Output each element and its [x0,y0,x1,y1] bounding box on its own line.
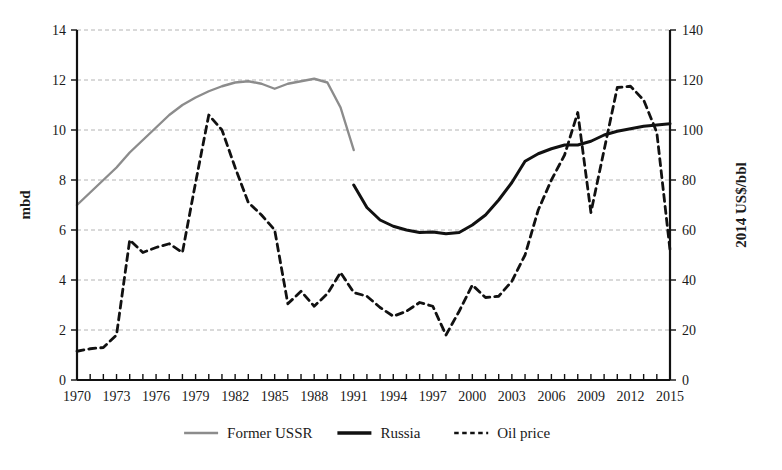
y2-tick-label: 20 [682,323,696,338]
y-axis-title: mbd [17,190,33,220]
x-tick-label: 1979 [182,389,210,404]
y2-tick-label: 40 [682,273,696,288]
y-tick-labels: 02468101214 [52,23,66,388]
legend-label: Former USSR [227,425,312,441]
y2-tick-label: 60 [682,223,696,238]
x-tick-label: 1970 [63,389,91,404]
y2-tick-label: 120 [682,73,703,88]
gridlines-layer [77,30,670,330]
x-tick-label: 1982 [221,389,249,404]
y2-tick-label: 80 [682,173,696,188]
x-tick-labels: 1970197319761979198219851988199119941997… [63,389,684,404]
legend-item[interactable]: Russia [337,425,420,441]
x-tick-label: 1976 [142,389,170,404]
series-russia [354,124,670,234]
y-tick-label: 12 [52,73,66,88]
legend-item[interactable]: Oil price [454,425,550,441]
y-tick-label: 8 [59,173,66,188]
series-oil-price [77,86,670,351]
y-tick-label: 14 [52,23,66,38]
x-tick-label: 2012 [616,389,644,404]
y2-tick-label: 140 [682,23,703,38]
y2-axis-title: 2014 US$/bbl [733,162,749,247]
y-tick-label: 6 [59,223,66,238]
chart-container: 1970197319761979198219851988199119941997… [0,0,782,470]
y-tick-label: 2 [59,323,66,338]
y-tick-label: 4 [59,273,66,288]
x-tick-label: 1973 [103,389,131,404]
legend: Former USSRRussiaOil price [184,425,550,441]
x-tick-label: 1988 [300,389,328,404]
legend-label: Oil price [497,425,550,441]
y2-tick-labels: 020406080100120140 [682,23,703,388]
series-former-ussr [77,79,354,205]
legend-item[interactable]: Former USSR [184,425,312,441]
y2-tick-label: 0 [682,373,689,388]
oil-production-price-chart: 1970197319761979198219851988199119941997… [0,0,782,470]
x-tick-label: 2006 [537,389,565,404]
x-tick-label: 2015 [656,389,684,404]
legend-label: Russia [380,425,420,441]
y-tick-label: 0 [59,373,66,388]
y2-tick-label: 100 [682,123,703,138]
y-tick-label: 10 [52,123,66,138]
x-tick-label: 2009 [577,389,605,404]
x-tick-label: 2003 [498,389,526,404]
series-layer [77,79,670,352]
x-tick-label: 1991 [340,389,368,404]
x-tick-label: 1985 [261,389,289,404]
axes-layer [77,30,670,380]
x-tick-label: 2000 [458,389,486,404]
x-tick-label: 1994 [379,389,407,404]
x-tick-label: 1997 [419,389,447,404]
